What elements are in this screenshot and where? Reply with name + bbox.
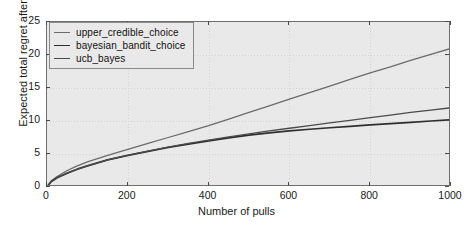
y-tick-mark-right xyxy=(445,21,449,22)
y-tick-mark-right xyxy=(445,186,449,187)
x-tick-mark xyxy=(208,182,209,186)
x-tick-mark-top xyxy=(288,21,289,25)
legend-item-label: ucb_bayes xyxy=(76,53,125,64)
legend-item-label: upper_credible_choice xyxy=(76,27,179,38)
y-tick-mark-right xyxy=(445,87,449,88)
y-tick-mark-right xyxy=(445,120,449,121)
series-line-upper-credible-choice xyxy=(47,48,450,186)
y-tick-mark xyxy=(46,120,50,121)
legend-item-label: bayesian_bandit_choice xyxy=(76,40,186,51)
x-tick-label: 800 xyxy=(339,189,399,201)
legend-line-swatch xyxy=(54,32,70,33)
chart-figure: 02004006008001000 0510152025 Number of p… xyxy=(0,0,473,228)
x-tick-label: 200 xyxy=(97,189,157,201)
y-tick-mark xyxy=(46,153,50,154)
x-tick-label: 1000 xyxy=(420,189,473,201)
y-tick-label: 0 xyxy=(0,180,40,190)
legend-item: bayesian_bandit_choice xyxy=(54,39,186,52)
x-tick-mark xyxy=(288,182,289,186)
x-tick-label: 400 xyxy=(178,189,238,201)
y-tick-mark-right xyxy=(445,54,449,55)
y-axis-label: Expected total regret after n pulls xyxy=(17,0,29,131)
legend-line-swatch xyxy=(54,58,70,59)
y-tick-mark xyxy=(46,87,50,88)
x-tick-mark-top xyxy=(208,21,209,25)
x-tick-mark-top xyxy=(369,21,370,25)
legend-item: upper_credible_choice xyxy=(54,26,186,39)
x-axis-label: Number of pulls xyxy=(0,205,473,217)
legend-line-swatch xyxy=(54,45,70,46)
x-tick-label: 0 xyxy=(16,189,76,201)
x-tick-mark-top xyxy=(450,21,451,25)
x-tick-mark xyxy=(450,182,451,186)
y-tick-label: 5 xyxy=(0,147,40,157)
series-line-bayesian-bandit-choice xyxy=(47,120,450,186)
legend-item: ucb_bayes xyxy=(54,52,186,65)
series-line-ucb-bayes xyxy=(47,108,450,186)
x-tick-mark xyxy=(127,182,128,186)
x-tick-label: 600 xyxy=(258,189,318,201)
y-tick-mark xyxy=(46,186,50,187)
y-axis-label-text: Expected total regret after xyxy=(17,0,29,127)
y-tick-mark-right xyxy=(445,153,449,154)
x-tick-mark xyxy=(369,182,370,186)
chart-legend: upper_credible_choicebayesian_bandit_cho… xyxy=(49,22,194,69)
